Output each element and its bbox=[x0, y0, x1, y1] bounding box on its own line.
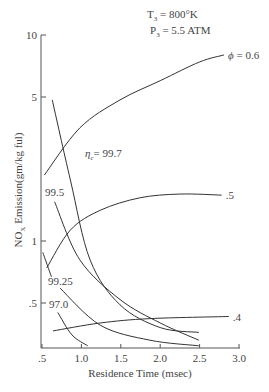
curve-label: .5 bbox=[226, 189, 235, 201]
y-axis-label: NOX Emission(gm/kg ful) bbox=[12, 132, 27, 247]
curve--c-99.5 bbox=[55, 202, 199, 340]
eta-annotation: ηc= 99.7 bbox=[85, 147, 122, 162]
curve--c-99.25 bbox=[43, 252, 52, 276]
x-tick-label: 1.0 bbox=[75, 352, 89, 364]
y-tick-label: 5 bbox=[32, 91, 38, 103]
x-axis-label: Residence Time (msec) bbox=[88, 367, 192, 380]
x-tick-label: 3.0 bbox=[232, 352, 246, 364]
nox-emission-chart: .51.01.52.02.53.0.51510 ϕ = 0.6.5.499.59… bbox=[0, 0, 269, 392]
x-tick-label: .5 bbox=[38, 352, 47, 364]
curve-label: ϕ = 0.6 bbox=[228, 49, 260, 61]
x-tick-label: 2.0 bbox=[153, 352, 167, 364]
curve-label: 97.0 bbox=[49, 298, 69, 310]
curve-label: 99.5 bbox=[45, 186, 65, 198]
y-tick-label: 1 bbox=[32, 235, 38, 247]
curve--.5 bbox=[47, 194, 222, 268]
axes bbox=[41, 35, 240, 348]
curve-label: .4 bbox=[233, 311, 242, 323]
x-tick-label: 1.5 bbox=[114, 352, 128, 364]
t3-annotation: T3 = 800°K bbox=[147, 8, 198, 23]
curve--.4 bbox=[53, 317, 229, 331]
x-tick-label: 2.5 bbox=[193, 352, 207, 364]
y-tick-label: .5 bbox=[29, 297, 38, 309]
y-tick-label: 10 bbox=[26, 29, 38, 41]
curve--c-99.25-cont bbox=[60, 288, 199, 346]
curve-label: 99.25 bbox=[48, 275, 73, 287]
curve--0.6 bbox=[44, 55, 224, 175]
p3-annotation: P3 = 5.5 ATM bbox=[150, 24, 211, 39]
